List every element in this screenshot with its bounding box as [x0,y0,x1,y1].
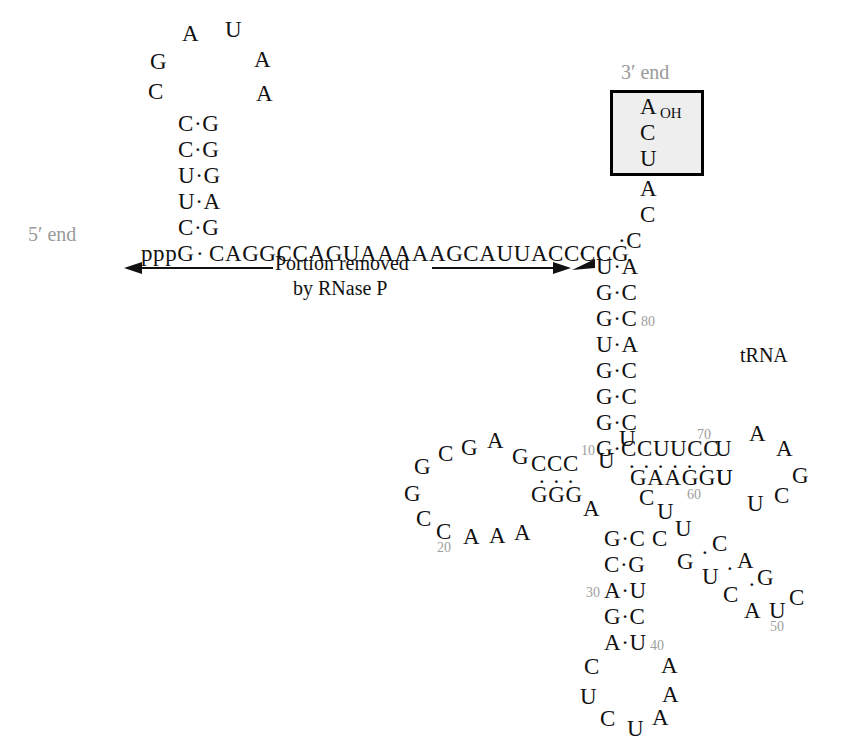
rnase-p-note-line1: Portion removed [275,253,409,273]
variable-dot-1: · [701,548,709,558]
three-prime-end-label: 3′ end [621,62,669,82]
variable-c-right: C [789,586,804,609]
anticodon-loop-c1: C [584,655,599,678]
variable-dot-2: · [726,564,734,574]
variable-c-upper: C [712,532,727,555]
anticodon-linker-a: A [583,497,600,520]
d-arm-stem-bottom: GGG [531,483,583,506]
d-loop-g3: G [512,445,529,468]
variable-extra-c: C [639,486,654,509]
leader-loop-base-c-left: C [148,80,163,103]
terminal-oh-label: OH [660,106,682,121]
t-loop-u3: U [716,466,733,489]
d-arm-linker-u-upper: U [619,427,636,450]
number-80: 80 [641,315,655,329]
leader-dot-2: · [578,242,586,265]
anticodon-loop-c2: C [600,707,615,730]
acceptor-pair-c: ·C [618,229,642,252]
leader-sequence: CAGGCCAGUAAAAAGCAUUACCCCG [209,242,629,265]
number-40: 40 [650,639,664,653]
t-loop-a1: A [749,422,766,445]
d-loop-a2: A [463,525,480,548]
d-loop-c2: C [416,507,431,530]
leader-loop-base-a-right: A [254,48,271,71]
d-arm-linker-u-lower: U [598,449,615,472]
leader-stem-pair-3: U·G [178,164,221,187]
variable-a-upper: A [737,549,754,572]
leader-stem-pair-2: C·G [178,138,219,161]
number-10: 10 [581,444,595,458]
leader-stem-pair-1: C·G [178,112,219,135]
leader-stem-pair-5: C·G [178,216,219,239]
number-50: 50 [770,620,784,634]
acceptor-pair-4: U·A [596,333,639,356]
variable-c-lower: C [723,583,738,606]
anticodon-pair-4: G·C [604,605,645,628]
rnase-p-note-line2: by RNase P [293,278,387,298]
d-loop-a1: A [487,429,504,452]
t-loop-u2: U [747,492,764,515]
five-prime-end-label: 5′ end [28,224,76,244]
acceptor-pair-5: G·C [596,359,637,382]
d-loop-a4: A [514,521,531,544]
trna-label: tRNA [740,345,788,365]
number-20: 20 [437,541,451,555]
variable-a-lower: A [744,599,761,622]
leader-loop-base-u-top: U [225,18,242,41]
d-loop-c1: C [438,442,453,465]
cca-base-u: U [640,147,657,170]
anticodon-loop-u1: U [580,685,597,708]
acceptor-ss-c: C [640,203,655,226]
leader-loop-base-g-left: G [150,50,167,73]
anticodon-pair-5: A·U [604,631,647,654]
anticodon-loop-a2: A [662,683,679,706]
variable-u-lower: U [702,565,719,588]
number-60: 60 [687,488,701,502]
cca-base-a: A [640,95,657,118]
number-70: 70 [697,428,711,442]
t-loop-g: G [792,464,809,487]
diagram-overlay [0,0,856,754]
variable-u-mid: U [675,517,692,540]
variable-dot-3: · [748,580,756,590]
d-loop-g2: G [414,455,431,478]
variable-u-top: U [657,500,674,523]
d-loop-g1: G [461,436,478,459]
anticodon-pair-3: A·U [604,579,647,602]
d-loop-g4: G [404,482,421,505]
t-loop-u1: U [715,437,732,460]
leader-loop-base-a-right2: A [256,82,273,105]
anticodon-loop-u2: U [627,717,644,740]
rnase-p-arrow-left-head [124,262,142,274]
leader-loop-base-a-top: A [182,22,199,45]
cca-end-box [610,90,704,176]
anticodon-pair-2: C·G [604,553,645,576]
acceptor-ss-a: A [640,177,657,200]
acceptor-pair-2: G·C [596,281,637,304]
d-loop-a3: A [489,524,506,547]
leader-stem-pair-4: U·A [178,190,221,213]
anticodon-loop-a1: A [652,706,669,729]
leader-ppp-g: pppG [141,242,195,265]
acceptor-pair-1: U·A [596,255,639,278]
variable-run-c2: C [652,527,667,550]
leader-dot-1: · [196,242,204,265]
anticodon-pair-1: G·C [604,527,645,550]
t-loop-c: C [774,484,789,507]
variable-g-upper: G [757,566,774,589]
acceptor-pair-3: G·C [596,307,637,330]
variable-g-left: G [677,550,694,573]
t-loop-a2: A [776,437,793,460]
acceptor-pair-6: G·C [596,385,637,408]
number-30: 30 [586,586,600,600]
anticodon-loop-a3: A [661,654,678,677]
cca-base-c: C [640,121,655,144]
